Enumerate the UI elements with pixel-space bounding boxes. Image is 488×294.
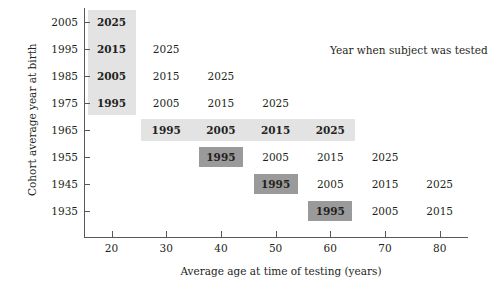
cell-value: 2005 <box>262 152 289 163</box>
cell-value: 2005 <box>317 179 344 190</box>
cell-value: 2025 <box>208 71 235 82</box>
y-axis-line <box>84 8 85 237</box>
y-tick-label: 1985 <box>51 70 78 82</box>
y-tick-label: 1945 <box>51 178 78 190</box>
cell-value: 1995 <box>97 98 126 109</box>
y-tick-1935 <box>84 211 90 212</box>
x-tick-label: 50 <box>269 242 282 254</box>
cell-value: 2015 <box>426 206 453 217</box>
cell-value: 2025 <box>262 98 289 109</box>
x-tick-label: 20 <box>105 242 118 254</box>
cell-value: 2015 <box>208 98 235 109</box>
cell-value: 2005 <box>153 98 180 109</box>
cell-value: 2015 <box>153 71 180 82</box>
x-tick-label: 70 <box>378 242 391 254</box>
y-tick-label: 1965 <box>51 124 78 136</box>
x-tick-80 <box>440 231 441 237</box>
cell-value: 2025 <box>426 179 453 190</box>
cell-value: 1995 <box>316 206 345 217</box>
x-axis-line <box>84 237 468 238</box>
x-tick-50 <box>276 231 277 237</box>
x-tick-label: 60 <box>324 242 337 254</box>
y-tick-1985 <box>84 76 90 77</box>
y-tick-1965 <box>84 130 90 131</box>
y-tick-1955 <box>84 157 90 158</box>
cell-value: 2015 <box>317 152 344 163</box>
x-tick-60 <box>330 231 331 237</box>
x-tick-30 <box>166 231 167 237</box>
x-tick-70 <box>385 231 386 237</box>
x-tick-20 <box>112 231 113 237</box>
y-tick-label: 1955 <box>51 151 78 163</box>
x-tick-label: 80 <box>433 242 446 254</box>
cell-value: 2005 <box>97 71 126 82</box>
y-tick-1945 <box>84 184 90 185</box>
cell-value: 2015 <box>372 179 399 190</box>
cell-value: 2025 <box>153 44 180 55</box>
cell-value: 1995 <box>261 179 290 190</box>
y-tick-label: 1995 <box>51 43 78 55</box>
cell-value: 2025 <box>372 152 399 163</box>
y-tick-label: 1975 <box>51 97 78 109</box>
y-tick-label: 2005 <box>51 16 78 28</box>
chart-annotation: Year when subject was tested <box>330 44 488 56</box>
cell-value: 2015 <box>97 44 126 55</box>
y-tick-label: 1935 <box>51 205 78 217</box>
y-axis-title: Cohort average year at birth <box>26 43 38 196</box>
cell-value: 1995 <box>152 125 181 136</box>
x-axis-title: Average age at time of testing (years) <box>180 265 381 277</box>
x-tick-label: 40 <box>214 242 227 254</box>
cell-value: 2005 <box>206 125 235 136</box>
cell-value: 2025 <box>316 125 345 136</box>
cell-value: 1995 <box>206 152 235 163</box>
cell-value: 2005 <box>372 206 399 217</box>
y-tick-1995 <box>84 49 90 50</box>
x-tick-40 <box>221 231 222 237</box>
cell-value: 2025 <box>97 17 126 28</box>
x-tick-label: 30 <box>160 242 173 254</box>
y-tick-1975 <box>84 103 90 104</box>
cell-value: 2015 <box>261 125 290 136</box>
y-tick-2005 <box>84 22 90 23</box>
